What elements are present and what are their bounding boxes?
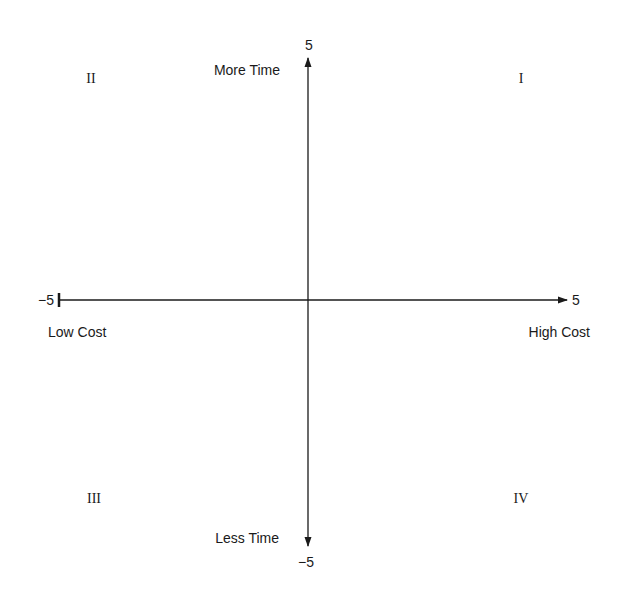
less-time-caption: Less Time [215, 530, 279, 546]
quadrant-label-ii: II [86, 71, 96, 86]
y-axis-min-label: −5 [298, 554, 314, 570]
quadrant-label-iv: IV [514, 491, 529, 506]
y-axis: 5 −5 More Time Less Time [214, 37, 314, 570]
high-cost-caption: High Cost [529, 324, 591, 340]
x-axis: −5 5 Low Cost High Cost [38, 292, 590, 340]
quadrant-diagram: −5 5 Low Cost High Cost 5 −5 More Time L… [0, 0, 622, 593]
quadrant-label-iii: III [87, 491, 101, 506]
y-axis-max-label: 5 [305, 37, 313, 53]
low-cost-caption: Low Cost [48, 324, 106, 340]
x-axis-min-label: −5 [38, 292, 54, 308]
quadrant-label-i: I [519, 71, 524, 86]
more-time-caption: More Time [214, 62, 280, 78]
x-axis-max-label: 5 [572, 292, 580, 308]
